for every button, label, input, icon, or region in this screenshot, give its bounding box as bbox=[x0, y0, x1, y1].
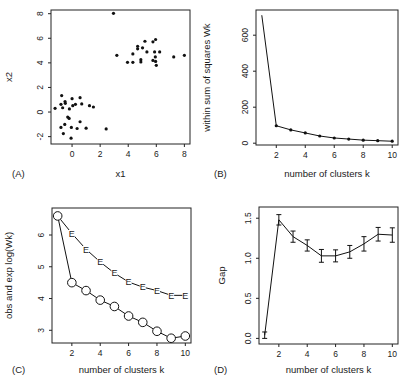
data-point bbox=[76, 127, 79, 130]
data-point bbox=[85, 127, 88, 130]
o-marker bbox=[138, 318, 147, 327]
o-marker bbox=[167, 334, 176, 343]
y-tick-label: 2 bbox=[35, 85, 45, 90]
panel-letter: (D) bbox=[214, 364, 227, 375]
y-tick-label: 600 bbox=[240, 28, 250, 42]
x-tick-label: 10 bbox=[388, 349, 398, 359]
x-tick-label: 4 bbox=[303, 150, 308, 160]
data-point bbox=[59, 103, 62, 106]
e-marker: E bbox=[168, 291, 174, 301]
panel-b-elbow-plot: 2468100200400600number of clusters kwith… bbox=[201, 10, 398, 179]
data-point bbox=[68, 117, 71, 120]
o-marker bbox=[68, 278, 77, 287]
y-axis-label: within sum of squares Wk bbox=[201, 23, 212, 132]
panel-letter: (C) bbox=[12, 364, 25, 375]
e-marker: E bbox=[182, 291, 188, 301]
data-point bbox=[304, 131, 307, 134]
x-tick-label: 2 bbox=[69, 348, 74, 358]
o-marker bbox=[82, 286, 91, 295]
x-tick-label: 8 bbox=[361, 150, 366, 160]
y-tick-label: 3 bbox=[36, 328, 46, 333]
y-tick-label: 0 bbox=[35, 109, 45, 114]
y-tick-label: 6 bbox=[35, 36, 45, 41]
y-axis-label: Gap bbox=[216, 267, 227, 285]
y-tick-label: 8 bbox=[35, 11, 45, 16]
e-marker: E bbox=[154, 286, 160, 296]
x-tick-label: 0 bbox=[70, 149, 75, 159]
x-tick-label: 6 bbox=[154, 149, 159, 159]
data-point bbox=[143, 40, 146, 43]
o-marker bbox=[181, 332, 190, 341]
e-marker: E bbox=[69, 229, 75, 239]
plot-frame bbox=[51, 10, 190, 144]
o-marker bbox=[110, 302, 119, 311]
y-tick-label: 1.5 bbox=[243, 212, 253, 224]
data-point bbox=[60, 94, 63, 97]
data-point bbox=[62, 132, 65, 135]
x-tick-label: 8 bbox=[362, 349, 367, 359]
data-point bbox=[61, 106, 64, 109]
x-tick-label: 6 bbox=[333, 349, 338, 359]
series-line bbox=[58, 216, 186, 295]
data-point bbox=[289, 128, 292, 131]
data-point bbox=[153, 50, 156, 53]
y-tick-label: 0.0 bbox=[243, 332, 253, 344]
e-marker: E bbox=[111, 268, 117, 278]
x-tick-label: 10 bbox=[181, 348, 191, 358]
e-marker: E bbox=[140, 282, 146, 292]
data-point bbox=[172, 55, 175, 58]
x-axis-label: number of clusters k bbox=[79, 364, 165, 375]
data-point bbox=[80, 102, 83, 105]
series-line bbox=[262, 15, 392, 141]
o-marker bbox=[124, 312, 133, 321]
y-tick-label: 0.5 bbox=[243, 292, 253, 304]
panel-letter: (A) bbox=[12, 168, 25, 179]
x-tick-label: 8 bbox=[182, 149, 187, 159]
data-point bbox=[141, 46, 144, 49]
data-point bbox=[391, 140, 394, 143]
y-tick-label: 200 bbox=[240, 100, 250, 114]
data-point bbox=[126, 61, 129, 64]
data-point bbox=[70, 97, 73, 100]
panel-d-gap-plot: 2468100.00.51.01.5number of clusters kGa… bbox=[214, 207, 398, 375]
x-tick-label: 2 bbox=[274, 150, 279, 160]
o-marker bbox=[153, 327, 162, 336]
data-point bbox=[158, 50, 161, 53]
data-point bbox=[136, 47, 139, 50]
e-marker: E bbox=[83, 245, 89, 255]
x-tick-label: 6 bbox=[126, 348, 131, 358]
data-point bbox=[88, 104, 91, 107]
x-axis-label: number of clusters k bbox=[284, 168, 370, 179]
data-point bbox=[69, 137, 72, 140]
data-point bbox=[64, 102, 67, 105]
data-point bbox=[318, 134, 321, 137]
x-axis-label: x1 bbox=[115, 168, 125, 179]
y-tick-label: 5 bbox=[36, 264, 46, 269]
data-point bbox=[115, 54, 118, 57]
y-tick-label: 4 bbox=[35, 60, 45, 65]
o-marker bbox=[96, 296, 105, 305]
y-tick-label: 0 bbox=[240, 141, 250, 146]
x-axis-label: number of clusters k bbox=[286, 364, 372, 375]
data-point bbox=[131, 52, 134, 55]
data-point bbox=[362, 139, 365, 142]
data-point bbox=[59, 126, 62, 129]
x-tick-label: 4 bbox=[305, 349, 310, 359]
data-point bbox=[154, 38, 157, 41]
figure-canvas: 02468-202468x1x2(A) 2468100200400600numb… bbox=[0, 0, 407, 379]
data-point bbox=[154, 60, 157, 63]
x-tick-label: 2 bbox=[276, 349, 281, 359]
x-tick-label: 10 bbox=[387, 150, 397, 160]
e-marker: E bbox=[97, 257, 103, 267]
data-point bbox=[68, 107, 71, 110]
panel-a-scatter: 02468-202468x1x2(A) bbox=[3, 10, 190, 179]
data-point bbox=[139, 60, 142, 63]
x-tick-label: 6 bbox=[332, 150, 337, 160]
panel-letter: (B) bbox=[214, 168, 227, 179]
e-marker: E bbox=[126, 277, 132, 287]
x-tick-label: 4 bbox=[98, 348, 103, 358]
data-point bbox=[74, 103, 77, 106]
series-line bbox=[265, 220, 393, 335]
data-point bbox=[151, 40, 154, 43]
data-point bbox=[105, 127, 108, 130]
